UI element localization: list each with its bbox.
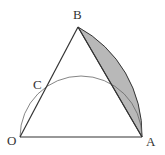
geometry-figure: B C O A bbox=[0, 0, 165, 155]
label-b: B bbox=[73, 7, 82, 22]
label-c: C bbox=[33, 77, 42, 92]
label-a: A bbox=[146, 134, 156, 149]
segment-ob bbox=[20, 27, 78, 137]
segment-ab bbox=[78, 27, 142, 137]
label-o: O bbox=[7, 133, 16, 148]
